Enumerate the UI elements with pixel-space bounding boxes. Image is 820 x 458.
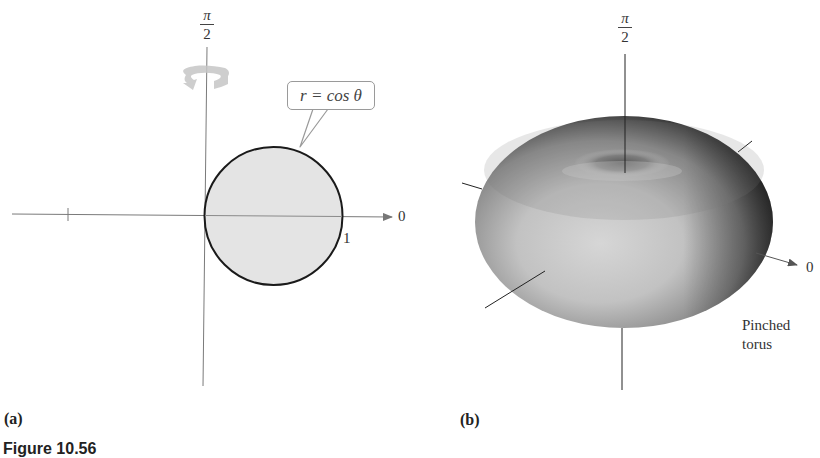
polar-axis-label-b: 0 [806,260,814,275]
vertical-axis-label-b: π 2 [615,11,635,45]
fraction-bar-b [618,27,632,28]
surface-label-line2: torus [742,335,790,354]
curve-equation: r = cos θ [300,86,362,105]
vertical-axis-label-a: π 2 [197,8,217,42]
panel-label-a: (a) [4,410,23,428]
two-denominator-b: 2 [615,30,635,45]
surface-label-line1: Pinched [742,316,790,335]
callout-pointer [300,109,328,147]
surface-label: Pinched torus [742,316,790,354]
rotation-arrow-icon [183,66,229,90]
pi-numerator: π [197,8,217,23]
back-axis-left [462,183,482,189]
radius-tick-label: 1 [343,231,351,246]
panel-label-b: (b) [460,411,480,429]
figure-caption: Figure 10.56 [3,440,96,458]
curve-equation-callout: r = cos θ [287,81,375,110]
polar-axis-label-a: 0 [398,209,406,224]
two-denominator: 2 [197,27,217,42]
pi-numerator-b: π [615,11,635,26]
fraction-bar [200,24,214,25]
